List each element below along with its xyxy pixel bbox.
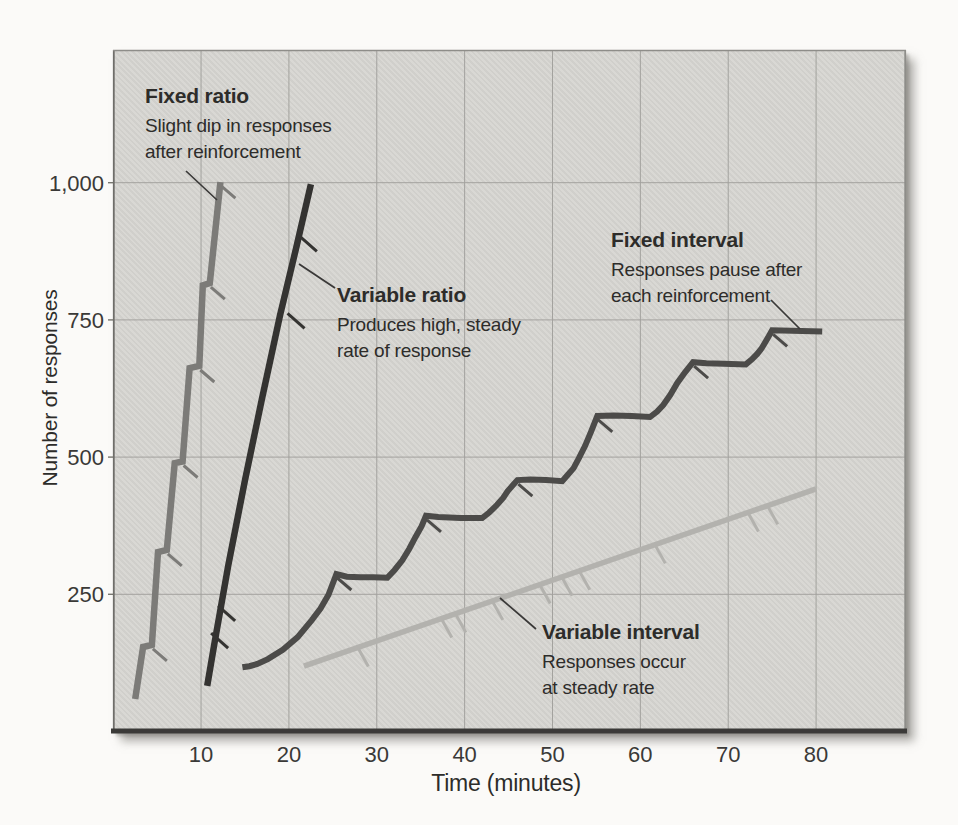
- annotation-fixed-interval: Fixed interval Responses pause after eac…: [611, 228, 802, 309]
- y-tick-label: 250: [40, 582, 104, 608]
- y-tick-label: 750: [40, 308, 104, 334]
- annotation-fixed-ratio-line1: Slight dip in responses: [145, 113, 332, 139]
- x-tick-label: 40: [435, 742, 495, 768]
- x-tick-label: 20: [259, 742, 319, 768]
- annotation-variable-interval-line2: at steady rate: [542, 675, 700, 701]
- x-tick-label: 60: [610, 742, 670, 768]
- annotation-fixed-ratio: Fixed ratio Slight dip in responses afte…: [145, 84, 332, 165]
- x-tick-label: 80: [786, 742, 846, 768]
- annotation-fixed-interval-line2: each reinforcement: [611, 283, 802, 309]
- x-tick-label: 10: [171, 742, 231, 768]
- x-tick-label: 30: [347, 742, 407, 768]
- x-tick-label: 50: [523, 742, 583, 768]
- annotation-variable-interval-title: Variable interval: [542, 620, 700, 644]
- figure-page: Number of responses 1,000750500250 10203…: [0, 0, 958, 825]
- annotation-variable-interval: Variable interval Responses occur at ste…: [542, 620, 700, 701]
- y-tick-label: 500: [40, 445, 104, 471]
- x-tick-label: 70: [698, 742, 758, 768]
- annotation-fixed-interval-title: Fixed interval: [611, 228, 802, 252]
- annotation-variable-interval-line1: Responses occur: [542, 649, 700, 675]
- annotation-fixed-ratio-line2: after reinforcement: [145, 139, 332, 165]
- y-tick-label: 1,000: [40, 171, 104, 197]
- annotation-variable-ratio-line2: rate of response: [337, 338, 521, 364]
- annotation-variable-ratio-title: Variable ratio: [337, 283, 521, 307]
- annotation-fixed-ratio-title: Fixed ratio: [145, 84, 332, 108]
- annotation-fixed-interval-line1: Responses pause after: [611, 257, 802, 283]
- annotation-variable-ratio-line1: Produces high, steady: [337, 312, 521, 338]
- annotation-variable-ratio: Variable ratio Produces high, steady rat…: [337, 283, 521, 364]
- x-axis-title: Time (minutes): [396, 770, 616, 797]
